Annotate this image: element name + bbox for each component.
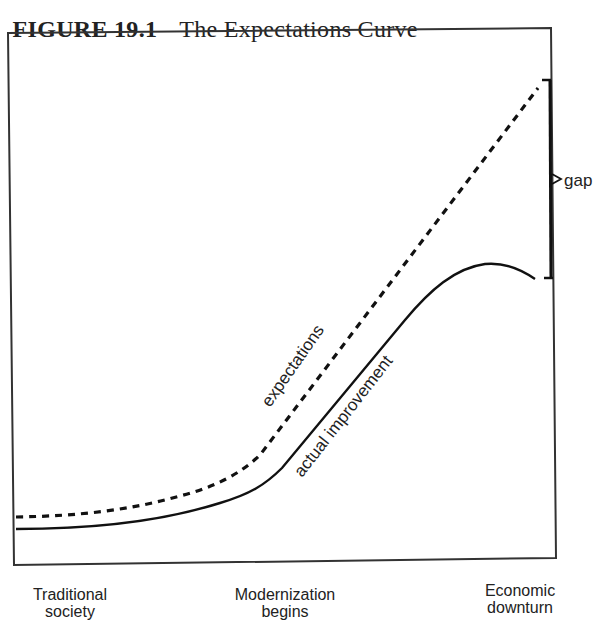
x-label-modernization-begins: Modernization begins	[220, 586, 350, 620]
gap-label: gap	[564, 171, 592, 190]
x-label-economic-downturn: Economic downturn	[470, 582, 570, 616]
x-label-line: Modernization	[220, 586, 350, 603]
actual-improvement-label: actual improvement	[290, 352, 396, 481]
plot-frame	[8, 28, 556, 565]
expectations-curve	[16, 88, 538, 517]
gap-bracket	[542, 80, 561, 279]
expectations-label: expectations	[258, 321, 328, 410]
x-label-line: downturn	[470, 599, 570, 616]
x-label-line: Traditional	[20, 586, 120, 603]
x-label-line: Economic	[470, 582, 570, 599]
x-label-line: begins	[220, 603, 350, 620]
x-label-traditional-society: Traditional society	[20, 586, 120, 620]
x-label-line: society	[20, 603, 120, 620]
